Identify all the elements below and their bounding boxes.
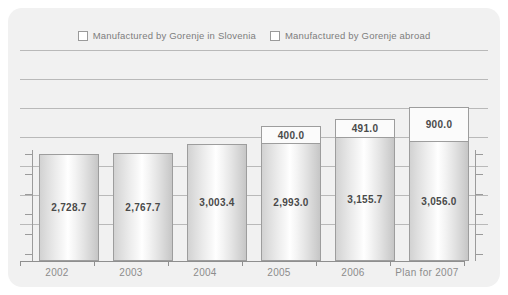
x-axis-tick [316,261,317,266]
legend-swatch-icon [78,31,88,41]
y-axis-tick [476,194,483,195]
y-axis-tick [25,234,32,235]
bar-group[interactable]: 491.03,155.7 [335,119,395,261]
legend-item-slovenia[interactable]: Manufactured by Gorenje in Slovenia [78,30,256,41]
x-axis-tick [168,261,169,266]
y-axis-tick [25,214,32,215]
x-axis-label-plan-for-2007: Plan for 2007 [390,267,464,278]
bar-value-label-slovenia: 3,155.7 [347,194,382,205]
y-axis-tick [25,194,32,195]
x-axis-tick [390,261,391,266]
bar-value-label-abroad: 900.0 [426,119,453,130]
legend-item-abroad[interactable]: Manufactured by Gorenje abroad [270,30,430,41]
bar-value-label-slovenia: 3,056.0 [421,196,456,207]
x-axis-labels: 20022003200420052006Plan for 2007 [20,267,464,287]
bar-series-container: 2,728.72,767.73,003.4400.02,993.0491.03,… [32,50,476,261]
bar-value-label-slovenia: 2,728.7 [51,202,86,213]
bar-segment-slovenia[interactable]: 3,056.0 [409,142,469,261]
y-axis-tick [25,254,32,255]
x-axis-tick [94,261,95,266]
y-axis-tick [25,174,32,175]
y-axis-tick [476,254,483,255]
bar-group[interactable]: 400.02,993.0 [261,126,321,261]
x-axis-tick [20,261,21,266]
bar-value-label-slovenia: 2,993.0 [273,197,308,208]
bar-value-label-abroad: 400.0 [278,130,305,141]
y-axis-tick [25,154,32,155]
bar-segment-abroad[interactable]: 491.0 [335,119,395,138]
bar-value-label-slovenia: 3,003.4 [199,197,234,208]
bar-segment-slovenia[interactable]: 3,003.4 [187,144,247,261]
legend-swatch-icon [270,31,280,41]
bar-segment-slovenia[interactable]: 2,993.0 [261,144,321,261]
legend-label-abroad: Manufactured by Gorenje abroad [285,30,430,41]
bar-group[interactable]: 2,728.7 [39,154,99,261]
bar-group[interactable]: 3,003.4 [187,144,247,261]
x-axis-tick [242,261,243,266]
bar-value-label-slovenia: 2,767.7 [125,202,160,213]
bar-segment-abroad[interactable]: 400.0 [261,126,321,144]
x-axis-label-2004: 2004 [168,267,242,278]
bar-segment-abroad[interactable]: 900.0 [409,107,469,142]
chart-legend: Manufactured by Gorenje in Slovenia Manu… [8,30,500,41]
bar-group[interactable]: 2,767.7 [113,153,173,261]
bar-value-label-abroad: 491.0 [352,123,379,134]
y-axis-tick [476,214,483,215]
y-axis-tick [476,234,483,235]
x-axis-tick [464,261,465,266]
bar-segment-slovenia[interactable]: 3,155.7 [335,138,395,261]
y-axis-tick [476,174,483,175]
legend-label-slovenia: Manufactured by Gorenje in Slovenia [93,30,256,41]
x-axis-label-2005: 2005 [242,267,316,278]
bar-segment-slovenia[interactable]: 2,728.7 [39,154,99,261]
y-axis-tick [476,154,483,155]
x-axis-label-2006: 2006 [316,267,390,278]
bar-group[interactable]: 900.03,056.0 [409,107,469,261]
bar-segment-slovenia[interactable]: 2,767.7 [113,153,173,261]
x-axis-label-2002: 2002 [20,267,94,278]
chart-panel: Manufactured by Gorenje in Slovenia Manu… [8,8,500,287]
x-axis-label-2003: 2003 [94,267,168,278]
plot-area: 2,728.72,767.73,003.4400.02,993.0491.03,… [20,50,488,261]
